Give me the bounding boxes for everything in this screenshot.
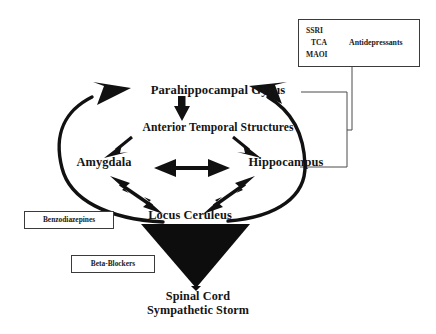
drug-box-benzodiazepines[interactable]: Benzodiazepines	[24, 211, 114, 229]
drug-box-antidepressants[interactable]: SSRI TCA MAOI Antidepressants	[298, 19, 420, 67]
antidepressant-agent-list: SSRI TCA MAOI	[306, 25, 328, 61]
edge-locus-to-parahippocampal-right	[228, 82, 305, 221]
sympathetic-storm-line: Sympathetic Storm	[118, 304, 278, 318]
agent-ssri: SSRI	[306, 25, 328, 37]
node-spinal-cord-sympathetic-storm: Spinal Cord Sympathetic Storm	[118, 290, 278, 317]
antidepressant-box-inner: SSRI TCA MAOI Antidepressants	[299, 20, 419, 66]
edge-parahippocampal-to-anterior	[174, 96, 190, 121]
node-anterior-temporal-structures: Anterior Temporal Structures	[0, 121, 436, 134]
drug-box-beta-blockers[interactable]: Beta-Blockers	[71, 255, 155, 273]
antidepressants-class-label: Antidepressants	[349, 38, 403, 47]
agent-maoi: MAOI	[306, 49, 328, 61]
agent-tca: TCA	[311, 37, 328, 49]
benzodiazepines-label: Benzodiazepines	[25, 212, 113, 228]
node-locus-ceruleus: Locus Ceruleus	[118, 209, 262, 223]
node-parahippocampal-gyrus: Parahippocampal Gyrus	[0, 83, 436, 97]
diagram-canvas: Parahippocampal Gyrus Anterior Temporal …	[0, 0, 436, 334]
edge-locus-to-spinal-triangle	[141, 224, 250, 288]
node-hippocampus: Hippocampus	[228, 156, 344, 170]
edge-amygdala-hippocampus	[154, 159, 230, 177]
node-amygdala: Amygdala	[52, 156, 156, 170]
spinal-cord-line: Spinal Cord	[118, 290, 278, 304]
beta-blockers-label: Beta-Blockers	[72, 256, 154, 272]
